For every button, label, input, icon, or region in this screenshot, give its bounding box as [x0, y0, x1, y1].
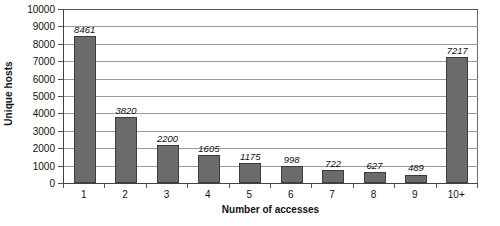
x-tick-label: 2 [122, 189, 128, 200]
x-tick-label: 4 [205, 189, 211, 200]
x-tick-label: 1 [81, 189, 87, 200]
y-tick-label: 10000 [27, 4, 55, 15]
plot-area: 846138202200160511759987226274897217 [63, 9, 478, 184]
bar [405, 175, 427, 184]
y-axis-title: Unique hosts [0, 0, 16, 186]
bar [281, 166, 303, 183]
y-tick-label: 7000 [33, 56, 55, 67]
y-tick-label: 3000 [33, 125, 55, 136]
bar [115, 117, 137, 183]
x-tick-mark [477, 184, 478, 188]
x-tick-label: 9 [412, 189, 418, 200]
bar-value-label: 489 [408, 162, 424, 174]
bar-value-label: 3820 [116, 105, 137, 117]
bars-layer: 846138202200160511759987226274897217 [64, 9, 478, 183]
x-tick-mark [229, 184, 230, 188]
x-tick-mark [394, 184, 395, 188]
y-axis-ticks: 0100020003000400050006000700080009000100… [16, 0, 58, 186]
bar-value-label: 8461 [74, 24, 95, 36]
bar [74, 36, 96, 183]
x-tick-label: 7 [329, 189, 335, 200]
x-tick-mark [311, 184, 312, 188]
x-tick-mark [63, 184, 64, 188]
bar-value-label: 1605 [198, 143, 219, 155]
x-tick-mark [187, 184, 188, 188]
bar-chart: Unique hosts 010002000300040005000600070… [0, 0, 500, 226]
x-tick-mark [353, 184, 354, 188]
bar-value-label: 627 [367, 160, 383, 172]
x-tick-label: 3 [164, 189, 170, 200]
y-tick-label: 1000 [33, 160, 55, 171]
x-axis-title: Number of accesses [63, 204, 478, 215]
y-tick-label: 2000 [33, 143, 55, 154]
y-tick-label: 0 [49, 178, 55, 189]
bar-value-label: 2200 [157, 133, 178, 145]
y-tick-label: 8000 [33, 38, 55, 49]
bar [364, 172, 386, 183]
x-tick-mark [146, 184, 147, 188]
y-tick-label: 6000 [33, 73, 55, 84]
x-tick-label: 10+ [448, 189, 465, 200]
y-tick-label: 9000 [33, 21, 55, 32]
bar [446, 57, 468, 183]
y-axis-title-text: Unique hosts [3, 61, 14, 126]
bar [198, 155, 220, 183]
bar [157, 145, 179, 183]
y-tick-label: 5000 [33, 91, 55, 102]
x-tick-mark [104, 184, 105, 188]
bar-value-label: 998 [284, 154, 300, 166]
x-tick-label: 5 [247, 189, 253, 200]
bar [322, 170, 344, 183]
bar-value-label: 1175 [240, 151, 260, 163]
x-tick-mark [436, 184, 437, 188]
x-tick-label: 8 [371, 189, 377, 200]
x-tick-mark [270, 184, 271, 188]
bar-value-label: 722 [325, 158, 341, 170]
y-tick-label: 4000 [33, 108, 55, 119]
bar [239, 163, 261, 183]
x-axis-ticks: 12345678910+ [63, 184, 478, 206]
x-tick-label: 6 [288, 189, 294, 200]
bar-value-label: 7217 [447, 45, 468, 57]
